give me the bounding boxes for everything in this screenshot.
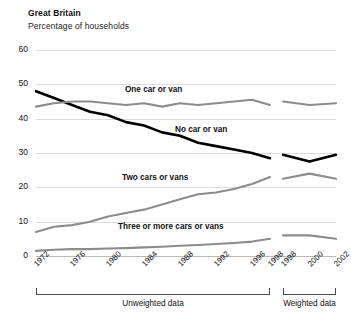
y-tick-label-20: 20 bbox=[6, 181, 28, 191]
series-label-two-cars-or-vans: Two cars or vans bbox=[122, 173, 188, 182]
series-line-one-car-or-van bbox=[283, 102, 336, 105]
series-label-no-car-or-van: No car or van bbox=[175, 125, 227, 134]
x-tick-label-1972: 1972 bbox=[32, 249, 51, 268]
y-tick-label-10: 10 bbox=[6, 216, 28, 226]
series-line-three-or-more-cars-or-vans bbox=[283, 235, 336, 238]
y-tick-label-30: 30 bbox=[6, 147, 28, 157]
y-tick-label-0: 0 bbox=[6, 250, 28, 260]
y-tick-label-40: 40 bbox=[6, 113, 28, 123]
unweighted-bracket bbox=[36, 288, 270, 295]
weighted-caption: Weighted data bbox=[277, 298, 342, 309]
weighted-bracket bbox=[283, 288, 336, 295]
series-line-no-car-or-van bbox=[283, 155, 336, 162]
chart-title: Great Britain bbox=[28, 8, 81, 18]
y-tick-label-50: 50 bbox=[6, 78, 28, 88]
panel-weighted bbox=[283, 50, 336, 256]
chart-subtitle: Percentage of households bbox=[28, 21, 129, 31]
series-label-three-or-more-cars-or-vans: Three or more cars or vans bbox=[118, 222, 224, 231]
series-label-one-car-or-van: One car or van bbox=[125, 85, 182, 94]
series-line-two-cars-or-vans bbox=[283, 174, 336, 179]
unweighted-caption: Unweighted data bbox=[36, 298, 270, 309]
y-tick-label-60: 60 bbox=[6, 44, 28, 54]
